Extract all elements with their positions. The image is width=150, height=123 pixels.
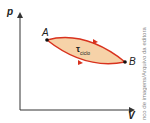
tau-subscript: ciclo: [80, 50, 90, 56]
pv-diagram: [0, 0, 150, 123]
work-label: τciclo: [76, 44, 90, 56]
lower-arrow-icon: [78, 60, 83, 65]
point-b: [123, 60, 127, 64]
point-b-label: B: [129, 56, 136, 67]
point-a-label: A: [42, 27, 49, 38]
point-a: [45, 38, 49, 42]
image-credit: nco de imagens/Arquivo da editora: [141, 2, 150, 120]
y-axis-label: p: [7, 6, 13, 17]
x-axis-label: V: [128, 110, 135, 121]
